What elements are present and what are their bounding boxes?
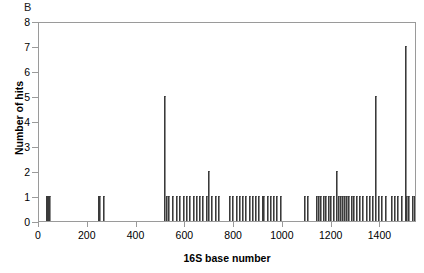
bar [304, 196, 306, 221]
bar [391, 196, 393, 221]
x-axis-tick-label: 800 [213, 229, 253, 241]
bar [320, 196, 322, 221]
x-axis-tick [87, 222, 88, 227]
y-axis-tick-label: 2 [12, 166, 30, 178]
bar [255, 196, 257, 221]
bar [353, 196, 355, 221]
bar [408, 196, 410, 221]
x-axis-tick [136, 222, 137, 227]
x-axis-tick [379, 222, 380, 227]
x-axis-title: 16S base number [38, 252, 416, 264]
bar [202, 196, 204, 221]
bar [242, 196, 244, 221]
bar [189, 196, 191, 221]
y-axis-tick-label: 6 [12, 66, 30, 78]
bar [280, 196, 282, 221]
x-axis-tick [38, 222, 39, 227]
bar [229, 196, 231, 221]
bar [186, 196, 188, 221]
bar [263, 196, 265, 221]
x-axis-tick [184, 222, 185, 227]
bar [218, 196, 220, 221]
bar [276, 196, 278, 221]
bar [232, 196, 234, 221]
y-axis-tick-label: 4 [12, 116, 30, 128]
bar [366, 196, 368, 221]
y-axis-tick-label: 0 [12, 216, 30, 228]
bar [330, 196, 332, 221]
bar [359, 196, 361, 221]
bar [316, 196, 318, 221]
x-axis-tick-label: 1400 [359, 229, 399, 241]
bar [236, 196, 238, 221]
bar [348, 196, 350, 221]
x-axis-tick [282, 222, 283, 227]
y-axis-tick-label: 7 [12, 41, 30, 53]
bar [249, 196, 251, 221]
bar [369, 196, 371, 221]
bar [215, 196, 217, 221]
x-axis-tick [233, 222, 234, 227]
bar [267, 196, 269, 221]
y-axis-tick-label: 5 [12, 91, 30, 103]
x-axis-tick-label: 1200 [311, 229, 351, 241]
bar [196, 196, 198, 221]
x-axis-tick-label: 0 [18, 229, 58, 241]
y-axis-tick-label: 1 [12, 191, 30, 203]
bar [245, 196, 247, 221]
x-axis-tick-label: 1000 [262, 229, 302, 241]
bar [168, 196, 170, 221]
bar [193, 196, 195, 221]
bar [401, 196, 403, 221]
bar [405, 46, 407, 221]
bar [385, 196, 387, 221]
bar [239, 196, 241, 221]
bar [211, 196, 213, 221]
bar [176, 196, 178, 221]
x-axis-tick-label: 400 [116, 229, 156, 241]
bar [199, 196, 201, 221]
bar [394, 196, 396, 221]
bar [252, 196, 254, 221]
bar [333, 196, 335, 221]
bar [273, 196, 275, 221]
bar [381, 196, 383, 221]
bar [49, 196, 51, 221]
bar [375, 96, 377, 221]
bar [356, 196, 358, 221]
bar [378, 196, 380, 221]
x-axis-tick-label: 200 [67, 229, 107, 241]
bar [208, 171, 210, 221]
panel-label: B [24, 1, 31, 13]
bar [258, 196, 260, 221]
bar [172, 196, 174, 221]
figure-panel-b: B Number of hits 16S base number 0123456… [0, 0, 424, 273]
bar [103, 196, 105, 221]
bar [183, 196, 185, 221]
bar [179, 196, 181, 221]
bar [362, 196, 364, 221]
x-axis-tick [331, 222, 332, 227]
plot-area [38, 22, 416, 222]
bar-series [39, 23, 415, 221]
bar [414, 196, 415, 221]
bar [99, 196, 101, 221]
bar [270, 196, 272, 221]
y-axis-tick-label: 8 [12, 16, 30, 28]
bar [397, 196, 399, 221]
bar [307, 196, 309, 221]
x-axis-tick-label: 600 [164, 229, 204, 241]
y-axis-tick-label: 3 [12, 141, 30, 153]
